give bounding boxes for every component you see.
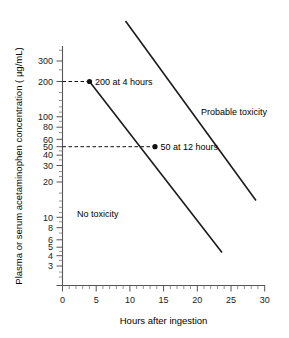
annotation-50-at-12-hours: 50 at 12 hours <box>161 142 219 152</box>
marker-50-at-12-hours <box>152 144 157 149</box>
y-tick-3: 3 <box>48 261 53 271</box>
acetaminophen-nomogram-chart: 300 200 100 80 60 50 40 30 20 10 8 6 5 4… <box>0 0 289 338</box>
chart-svg: 300 200 100 80 60 50 40 30 20 10 8 6 5 4… <box>0 0 289 338</box>
annotation-200-at-4-hours: 200 at 4 hours <box>95 77 153 87</box>
x-tick-15: 15 <box>159 295 169 305</box>
y-tick-200: 200 <box>38 77 53 87</box>
x-tick-5: 5 <box>94 295 99 305</box>
x-tick-10: 10 <box>125 295 135 305</box>
x-tick-25: 25 <box>226 295 236 305</box>
y-tick-10: 10 <box>43 213 53 223</box>
y-tick-100: 100 <box>38 112 53 122</box>
y-tick-80: 80 <box>43 122 53 132</box>
y-tick-20: 20 <box>43 177 53 187</box>
y-tick-40: 40 <box>43 150 53 160</box>
x-tick-0: 0 <box>60 295 65 305</box>
region-label-probable-toxicity: Probable toxicity <box>201 107 268 117</box>
y-tick-4: 4 <box>48 251 53 261</box>
marker-200-at-4-hours <box>87 79 92 84</box>
y-tick-30: 30 <box>43 161 53 171</box>
x-axis-title: Hours after ingestion <box>120 315 208 326</box>
region-label-no-toxicity: No toxicity <box>77 209 119 219</box>
x-tick-20: 20 <box>192 295 202 305</box>
y-tick-300: 300 <box>38 56 53 66</box>
y-axis-title: Plasma or serum acetaminophen concentrat… <box>13 47 24 284</box>
x-tick-30: 30 <box>260 295 270 305</box>
y-tick-8: 8 <box>48 223 53 233</box>
